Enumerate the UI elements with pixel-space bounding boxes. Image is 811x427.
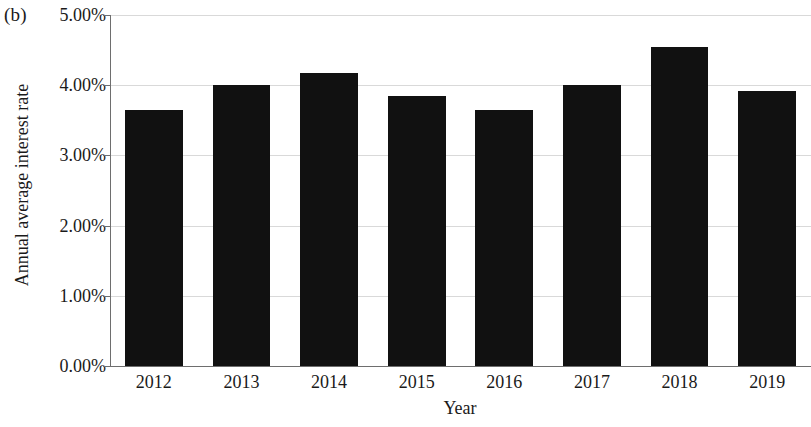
bar[interactable] xyxy=(563,85,621,366)
bar[interactable] xyxy=(388,96,446,366)
bar-chart-figure: (b) Annual average interest rate 0.00%1.… xyxy=(0,0,811,427)
x-axis-tick-label: 2014 xyxy=(285,370,373,394)
y-axis-tick-mark xyxy=(103,155,111,156)
x-axis-tick-label-group: 20122013201420152016201720182019 xyxy=(110,370,811,396)
bar[interactable] xyxy=(475,110,533,366)
x-axis-tick-label: 2016 xyxy=(461,370,549,394)
x-axis-tick-label: 2012 xyxy=(110,370,198,394)
bar-slot xyxy=(651,15,709,366)
bar-slot xyxy=(125,15,183,366)
plot-area xyxy=(110,15,811,366)
bar-slot xyxy=(213,15,271,366)
bar[interactable] xyxy=(213,85,271,366)
y-axis-tick-mark xyxy=(103,296,111,297)
y-axis-tick-label: 0.00% xyxy=(28,357,106,375)
bar[interactable] xyxy=(300,73,358,366)
y-axis-tick-label: 4.00% xyxy=(28,76,106,94)
y-axis-tick-label: 5.00% xyxy=(28,6,106,24)
bar[interactable] xyxy=(738,91,796,366)
x-axis-tick-label: 2013 xyxy=(198,370,286,394)
bar-slot xyxy=(475,15,533,366)
x-axis-tick-label: 2017 xyxy=(548,370,636,394)
x-axis-tick-label: 2015 xyxy=(373,370,461,394)
bar-slot xyxy=(388,15,446,366)
bar-group xyxy=(110,15,811,366)
y-axis-tick-mark xyxy=(103,226,111,227)
y-axis-tick-mark xyxy=(103,15,111,16)
y-axis-tick-label-group: 0.00%1.00%2.00%3.00%4.00%5.00% xyxy=(28,0,106,427)
y-axis-tick-label: 3.00% xyxy=(28,146,106,164)
y-axis-tick-label: 1.00% xyxy=(28,287,106,305)
bar-slot xyxy=(563,15,621,366)
y-axis-tick-mark xyxy=(103,85,111,86)
x-axis-tick-label: 2018 xyxy=(636,370,724,394)
y-axis-tick-label: 2.00% xyxy=(28,217,106,235)
x-axis-title: Year xyxy=(130,398,790,418)
gridline xyxy=(110,366,811,367)
bar-slot xyxy=(738,15,796,366)
bar[interactable] xyxy=(125,110,183,366)
x-axis-tick-label: 2019 xyxy=(723,370,811,394)
bar-slot xyxy=(300,15,358,366)
y-axis-tick-mark xyxy=(103,366,111,367)
bar[interactable] xyxy=(651,47,709,366)
